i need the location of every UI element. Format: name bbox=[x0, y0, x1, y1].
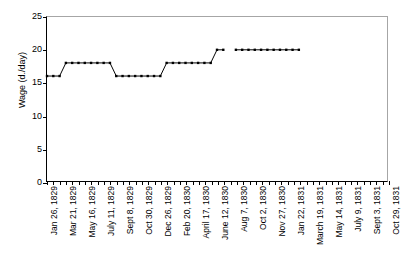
data-point-marker bbox=[184, 62, 186, 64]
x-tickmark bbox=[383, 181, 384, 185]
x-tickmark bbox=[288, 181, 289, 185]
data-point-marker bbox=[58, 75, 60, 77]
x-tick-label: Nov 27, 1830 bbox=[278, 186, 287, 237]
x-tick-label: April 17, 1830 bbox=[202, 186, 211, 238]
data-point-marker bbox=[272, 49, 274, 51]
data-point-marker bbox=[84, 62, 86, 64]
data-point-marker bbox=[197, 62, 199, 64]
x-tickmark bbox=[47, 181, 48, 185]
data-point-marker bbox=[77, 62, 79, 64]
x-tickmark bbox=[307, 181, 308, 185]
plot-inner bbox=[47, 17, 387, 181]
data-point-marker bbox=[102, 62, 104, 64]
data-point-marker bbox=[298, 49, 300, 51]
wage-chart: Wage (d./day) 0510152025 Jan 26, 1829Mar… bbox=[0, 0, 409, 269]
data-point-marker bbox=[90, 62, 92, 64]
x-tick-label: March 19, 1831 bbox=[316, 186, 325, 245]
data-point-marker bbox=[222, 49, 224, 51]
y-tick-15: 15 bbox=[20, 78, 42, 87]
x-tickmark bbox=[98, 181, 99, 185]
y-tick-20: 20 bbox=[20, 45, 42, 54]
data-point-marker bbox=[203, 62, 205, 64]
x-tickmark bbox=[129, 181, 130, 185]
x-tickmark bbox=[155, 181, 156, 185]
x-tick-label: May 16, 1829 bbox=[88, 186, 97, 238]
x-tickmark bbox=[313, 181, 314, 185]
y-tick-25: 25 bbox=[20, 12, 42, 21]
data-point-marker bbox=[52, 75, 54, 77]
x-tickmark bbox=[148, 181, 149, 185]
x-tickmark bbox=[72, 181, 73, 185]
data-point-marker bbox=[134, 75, 136, 77]
x-axis-tick-labels: Jan 26, 1829Mar 21, 1829May 16, 1829July… bbox=[46, 186, 388, 269]
x-tickmark bbox=[123, 181, 124, 185]
x-tick-label: Oct 2, 1830 bbox=[259, 186, 268, 230]
data-point-marker bbox=[121, 75, 123, 77]
y-axis-tick-labels: 0510152025 bbox=[20, 0, 42, 269]
x-tick-label: Sept 8, 1829 bbox=[126, 186, 135, 234]
wage-series bbox=[47, 17, 387, 181]
x-tickmark bbox=[180, 181, 181, 185]
x-tickmark bbox=[370, 181, 371, 185]
y-tickmark-5 bbox=[43, 150, 47, 151]
data-point-marker bbox=[65, 62, 67, 64]
plot-area bbox=[46, 16, 388, 182]
data-point-marker bbox=[291, 49, 293, 51]
x-tickmark bbox=[85, 181, 86, 185]
x-tickmark bbox=[326, 181, 327, 185]
x-tickmark bbox=[199, 181, 200, 185]
x-tickmark bbox=[231, 181, 232, 185]
x-tickmark bbox=[104, 181, 105, 185]
data-point-marker bbox=[266, 49, 268, 51]
y-tickmark-25 bbox=[43, 17, 47, 18]
x-tick-label: June 12, 1830 bbox=[221, 186, 230, 240]
data-point-marker bbox=[216, 49, 218, 51]
x-tickmark bbox=[167, 181, 168, 185]
data-point-marker bbox=[254, 49, 256, 51]
x-tick-label: Mar 21, 1829 bbox=[69, 186, 78, 236]
x-tickmark bbox=[186, 181, 187, 185]
x-tickmark bbox=[345, 181, 346, 185]
x-tickmark bbox=[161, 181, 162, 185]
data-point-marker bbox=[147, 75, 149, 77]
x-tick-label: May 14, 1831 bbox=[335, 186, 344, 238]
data-point-marker bbox=[279, 49, 281, 51]
y-tick-0: 0 bbox=[20, 178, 42, 187]
x-tick-label: July 9, 1831 bbox=[354, 186, 363, 232]
data-point-marker bbox=[109, 62, 111, 64]
x-tickmark bbox=[262, 181, 263, 185]
data-point-marker bbox=[210, 62, 212, 64]
data-point-marker bbox=[153, 75, 155, 77]
x-tickmark bbox=[269, 181, 270, 185]
data-point-marker bbox=[96, 62, 98, 64]
data-point-marker bbox=[159, 75, 161, 77]
x-tickmark bbox=[224, 181, 225, 185]
x-tickmark bbox=[205, 181, 206, 185]
y-tick-5: 5 bbox=[20, 144, 42, 153]
x-tickmark bbox=[250, 181, 251, 185]
x-tickmark bbox=[319, 181, 320, 185]
x-tickmark bbox=[237, 181, 238, 185]
y-tickmark-20 bbox=[43, 50, 47, 51]
x-tickmark bbox=[212, 181, 213, 185]
data-point-marker bbox=[128, 75, 130, 77]
data-point-marker bbox=[247, 49, 249, 51]
x-tickmark bbox=[53, 181, 54, 185]
x-tickmark bbox=[389, 181, 390, 185]
x-tickmark bbox=[66, 181, 67, 185]
data-point-marker bbox=[178, 62, 180, 64]
x-tick-label: Feb 20, 1830 bbox=[183, 186, 192, 236]
x-tickmark bbox=[193, 181, 194, 185]
x-tickmark bbox=[357, 181, 358, 185]
x-tickmark bbox=[376, 181, 377, 185]
y-tickmark-15 bbox=[43, 83, 47, 84]
x-tickmark bbox=[79, 181, 80, 185]
series-line bbox=[47, 50, 223, 76]
data-point-marker bbox=[115, 75, 117, 77]
data-point-marker bbox=[260, 49, 262, 51]
x-tickmark bbox=[294, 181, 295, 185]
x-tickmark bbox=[243, 181, 244, 185]
x-tickmark bbox=[142, 181, 143, 185]
x-tickmark bbox=[174, 181, 175, 185]
x-tick-label: July 11, 1829 bbox=[107, 186, 116, 236]
